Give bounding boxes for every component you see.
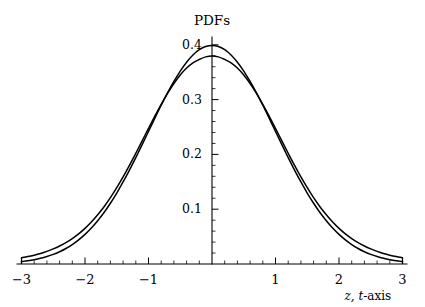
x-tick-label: 2 [319,273,359,286]
y-tick-label: 0.3 [166,94,202,107]
y-tick-label: 0.2 [166,148,202,161]
x-tick-label: 1 [256,273,296,286]
chart-canvas [0,0,425,307]
x-tick-label: −3 [2,273,42,286]
x-tick-label: 3 [383,273,423,286]
chart-figure: PDFs z, t-axis −3−2−11230.10.20.30.4 [0,0,425,307]
y-tick-label: 0.1 [166,203,202,216]
x-axis-label: z, t-axis [345,290,392,302]
x-tick-label: −2 [65,273,105,286]
chart-title: PDFs [152,14,272,28]
y-tick-label: 0.4 [166,39,202,52]
x-tick-label: −1 [129,273,169,286]
